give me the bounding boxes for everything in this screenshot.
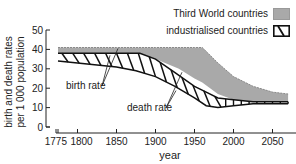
legend-label-third-world: Third World countries	[173, 8, 268, 19]
x-tick-label: 2000	[222, 136, 245, 147]
legend-item-industrialised: industrialised countries	[166, 22, 290, 39]
y-axis-label-line2: per 1 000 population	[15, 36, 26, 127]
y-axis-label-line1: birth and death rates	[3, 36, 14, 128]
x-tick-label: 1850	[105, 136, 128, 147]
x-axis-label: year	[159, 149, 181, 161]
x-tick-label: 1900	[144, 136, 167, 147]
hatched-swatch-icon	[273, 25, 290, 37]
data-areas	[58, 48, 288, 108]
grey-swatch-icon	[273, 8, 290, 20]
legend: Third World countries industrialised cou…	[166, 5, 290, 39]
y-tick-label: 50	[32, 25, 44, 36]
y-tick-label: 0	[37, 122, 43, 133]
y-tick-label: 30	[32, 63, 44, 74]
y-tick-label: 20	[32, 83, 44, 94]
legend-item-third-world: Third World countries	[166, 5, 290, 22]
x-tick-label: 1800	[70, 136, 93, 147]
y-tick-label: 10	[32, 102, 44, 113]
y-tick-label: 40	[32, 44, 44, 55]
chart: 010203040501775180018501900195020002050y…	[0, 0, 296, 164]
x-tick-label: 2050	[261, 136, 284, 147]
legend-label-industrialised: industrialised countries	[166, 25, 268, 36]
birth-rate-label: birth rate	[66, 80, 106, 91]
x-tick-label: 1775	[45, 136, 68, 147]
death-rate-label: death rate	[127, 102, 172, 113]
x-tick-label: 1950	[183, 136, 206, 147]
